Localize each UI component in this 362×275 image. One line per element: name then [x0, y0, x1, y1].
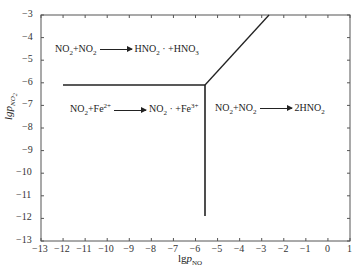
y-tick-label: −3 [22, 8, 33, 19]
y-tick-label: −10 [16, 166, 32, 177]
arrow-icon [114, 110, 146, 111]
x-tick-label: −8 [145, 243, 156, 254]
y-axis-label: lgpNO2 [2, 93, 19, 120]
x-tick-label: −7 [167, 243, 178, 254]
y-tick-label: −9 [22, 144, 33, 155]
y-tick-label: −12 [16, 211, 32, 222]
x-tick-label: 0 [325, 243, 330, 254]
x-tick-label: 1 [347, 243, 352, 254]
y-tick-label: −13 [16, 234, 32, 245]
x-tick-label: −13 [32, 243, 48, 254]
arrow-icon [100, 49, 132, 50]
y-tick-label: −7 [22, 98, 33, 109]
y-tick-label: −11 [16, 189, 31, 200]
x-tick-label: −10 [98, 243, 114, 254]
x-tick-label: −2 [278, 243, 289, 254]
x-tick-label: −12 [54, 243, 70, 254]
x-tick-label: −3 [256, 243, 267, 254]
x-axis-label: lgpNO [178, 252, 202, 267]
region-label-1: NO2+NO2HNO2 · +HNO3 [55, 43, 199, 57]
x-tick-label: −1 [300, 243, 311, 254]
y-tick-label: −4 [22, 31, 33, 42]
diagonal-boundary [205, 15, 269, 85]
region-label-3: NO2+NO22HNO2 [215, 102, 325, 116]
y-tick-label: −5 [22, 53, 33, 64]
arrow-icon [260, 108, 292, 109]
x-tick-label: −5 [212, 243, 223, 254]
chart-plot [0, 0, 362, 275]
y-tick-label: −8 [22, 121, 33, 132]
region-label-2: NO2+Fe2+NO2 · +Fe3+ [70, 102, 198, 117]
y-tick-label: −6 [22, 76, 33, 87]
x-tick-label: −4 [234, 243, 245, 254]
x-tick-label: −9 [123, 243, 134, 254]
x-tick-label: −11 [76, 243, 91, 254]
